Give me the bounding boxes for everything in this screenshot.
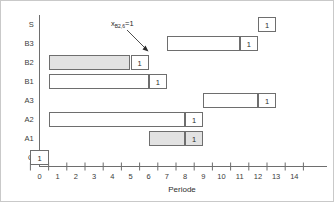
x-tick-label-3: 3 — [88, 172, 100, 181]
bar-marker-b3: 1 — [240, 36, 258, 51]
bar-body-b2 — [49, 55, 131, 70]
y-axis-label-b3: B3 — [14, 39, 34, 48]
x-tick-label-6: 6 — [143, 172, 155, 181]
bar-marker-q: 1 — [30, 150, 48, 165]
x-tick-label-7: 7 — [161, 172, 173, 181]
bar-body-a1 — [149, 131, 185, 146]
bar-marker-a2: 1 — [185, 112, 203, 127]
annotation-arrow — [127, 30, 149, 52]
x-tick-label-2: 2 — [70, 172, 82, 181]
x-tick-label-5: 5 — [125, 172, 137, 181]
bar-body-a3 — [203, 93, 258, 108]
y-axis-label-a2: A2 — [14, 115, 34, 124]
y-axis-label-b1: B1 — [14, 77, 34, 86]
x-tick-label-12: 12 — [252, 172, 264, 181]
bar-body-a2 — [49, 112, 186, 127]
bar-marker-a1: 1 — [185, 131, 203, 146]
bar-marker-b2: 1 — [131, 55, 149, 70]
bar-body-b3 — [167, 36, 240, 51]
x-tick-label-4: 4 — [106, 172, 118, 181]
x-tick-label-14: 14 — [288, 172, 300, 181]
bar-marker-b1: 1 — [149, 74, 167, 89]
x-tick-label-9: 9 — [197, 172, 209, 181]
x-axis-title: Periode — [122, 185, 242, 194]
figure-frame: QA1A2A3B1B2B3S 01234567891011121314 1111… — [0, 0, 334, 202]
x-tick-label-13: 13 — [270, 172, 282, 181]
gantt-chart: QA1A2A3B1B2B3S 01234567891011121314 1111… — [1, 1, 334, 202]
bar-marker-s: 1 — [258, 17, 276, 32]
y-axis-label-a1: A1 — [14, 134, 34, 143]
x-tick-label-11: 11 — [234, 172, 246, 181]
x-tick-label-1: 1 — [52, 172, 64, 181]
y-axis-label-a3: A3 — [14, 96, 34, 105]
y-axis-label-s: S — [14, 20, 34, 29]
x-tick-label-0: 0 — [34, 172, 46, 181]
x-tick-label-8: 8 — [179, 172, 191, 181]
bar-body-b1 — [49, 74, 149, 89]
annotation-label: xB2,6=1 — [111, 19, 134, 28]
y-axis-label-b2: B2 — [14, 58, 34, 67]
x-tick-label-10: 10 — [216, 172, 228, 181]
annotation-value: =1 — [125, 19, 134, 28]
bar-marker-a3: 1 — [258, 93, 276, 108]
annotation-subscript: B2,6 — [115, 23, 125, 29]
